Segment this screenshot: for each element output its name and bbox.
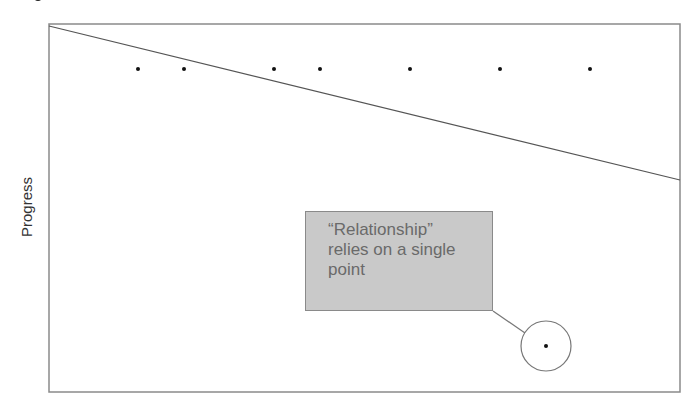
data-point	[318, 67, 322, 71]
annotation-line-3: point	[328, 260, 492, 280]
outlier-point	[544, 344, 548, 348]
data-point	[498, 67, 502, 71]
callout-connector	[493, 311, 525, 333]
data-point	[408, 67, 412, 71]
data-point	[272, 67, 276, 71]
annotation-line-1: “Relationship”	[328, 220, 492, 240]
data-point	[136, 67, 140, 71]
scatter-plot	[0, 0, 692, 402]
data-point	[182, 67, 186, 71]
plot-frame	[49, 24, 680, 392]
regression-line	[49, 26, 680, 180]
data-point	[588, 67, 592, 71]
annotation-line-2: relies on a single	[328, 240, 492, 260]
annotation-box: “Relationship” relies on a single point	[305, 211, 493, 311]
